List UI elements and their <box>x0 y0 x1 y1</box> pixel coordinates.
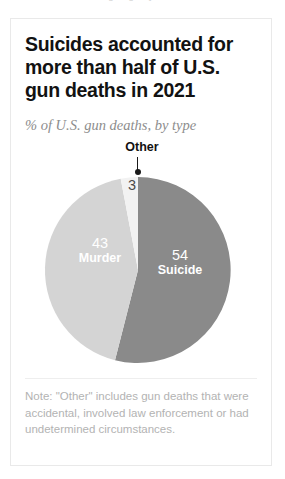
chart-card: Suicides accounted for more than half of… <box>10 18 272 466</box>
other-callout: Other <box>11 140 272 180</box>
slice-value-suicide: 54 <box>143 248 217 263</box>
slice-label-murder: 43 Murder <box>63 236 137 266</box>
slice-value-murder: 43 <box>63 236 137 251</box>
slice-name-murder: Murder <box>63 251 137 266</box>
pie-chart: Other 54 Suicide 43 Murder 3 <box>11 140 272 368</box>
chart-subtitle: % of U.S. gun deaths, by type <box>25 116 257 134</box>
callout-dot-icon <box>135 169 141 175</box>
slice-value-other: 3 <box>121 178 143 193</box>
slice-name-suicide: Suicide <box>143 263 217 278</box>
chart-note: Note: "Other" includes gun deaths that w… <box>25 388 257 438</box>
page-title: Suicides accounted for more than half of… <box>25 33 257 102</box>
slice-label-suicide: 54 Suicide <box>143 248 217 278</box>
clipped-text-above-card: o o i <box>0 0 285 14</box>
note-divider <box>25 378 257 379</box>
other-callout-label: Other <box>11 140 272 154</box>
clipped-text: o o i <box>108 0 158 3</box>
